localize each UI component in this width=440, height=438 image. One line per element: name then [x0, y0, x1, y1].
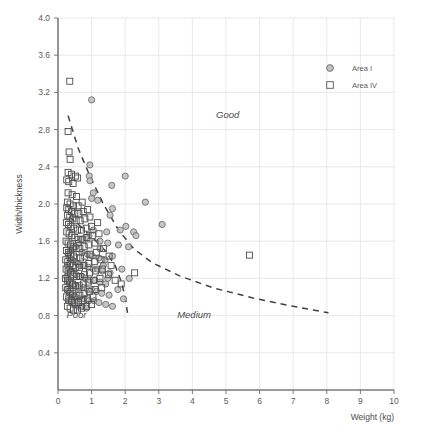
- zone-label-good: Good: [216, 109, 240, 120]
- data-point: [108, 262, 114, 268]
- scatter-plot: 0123456789100.40.81.21.62.02.42.83.23.64…: [0, 0, 440, 438]
- y-tick-label: 0.4: [38, 348, 50, 358]
- data-point: [93, 268, 99, 274]
- data-point: [96, 231, 102, 237]
- data-point: [95, 220, 101, 226]
- data-point: [99, 285, 105, 291]
- y-tick-label: 1.2: [38, 273, 50, 283]
- data-point: [87, 178, 93, 184]
- data-point: [132, 270, 138, 276]
- data-point: [86, 288, 92, 294]
- data-point: [119, 266, 125, 272]
- y-tick-label: 0.8: [38, 311, 50, 321]
- legend-label-area-iv: Area IV: [352, 81, 377, 90]
- x-tick-label: 5: [224, 396, 229, 406]
- x-tick-label: 1: [89, 396, 94, 406]
- data-point: [99, 266, 105, 272]
- y-tick-label: 1.6: [38, 236, 50, 246]
- data-point: [247, 252, 253, 258]
- x-tick-label: 2: [123, 396, 128, 406]
- legend-marker-area-i: [327, 65, 334, 72]
- data-point: [85, 207, 91, 213]
- data-point: [87, 214, 93, 220]
- x-tick-label: 0: [56, 396, 61, 406]
- legend-label-area-i: Area I: [352, 64, 372, 73]
- x-tick-label: 6: [257, 396, 262, 406]
- data-point: [89, 97, 95, 103]
- y-tick-label: 3.2: [38, 87, 50, 97]
- data-point: [142, 199, 148, 205]
- data-point: [86, 242, 92, 248]
- data-point: [65, 128, 71, 134]
- data-point: [109, 206, 115, 212]
- y-tick-label: 2.8: [38, 125, 50, 135]
- data-point: [91, 259, 97, 265]
- data-point: [115, 242, 121, 248]
- data-point: [89, 233, 95, 239]
- data-point: [79, 199, 85, 205]
- x-tick-label: 3: [156, 396, 161, 406]
- data-point: [107, 212, 113, 218]
- legend-marker-area-iv: [327, 82, 334, 89]
- chart-container: 0123456789100.40.81.21.62.02.42.83.23.64…: [0, 0, 440, 438]
- data-point: [117, 227, 123, 233]
- data-point: [125, 244, 131, 250]
- y-tick-label: 4.0: [38, 13, 50, 23]
- data-point: [67, 156, 73, 162]
- data-point: [100, 246, 106, 252]
- x-tick-label: 4: [190, 396, 195, 406]
- data-point: [133, 233, 139, 239]
- data-point: [93, 249, 99, 255]
- data-point: [95, 197, 101, 203]
- data-point: [106, 292, 112, 298]
- data-point: [89, 195, 95, 201]
- data-point: [66, 149, 72, 155]
- data-point: [159, 221, 165, 227]
- data-point: [120, 296, 126, 302]
- y-tick-label: 2.4: [38, 162, 50, 172]
- data-point: [96, 299, 102, 305]
- x-tick-label: 10: [389, 396, 399, 406]
- data-point: [109, 182, 115, 188]
- data-point: [92, 287, 98, 293]
- data-point: [89, 301, 95, 307]
- x-tick-label: 9: [358, 396, 363, 406]
- data-point: [118, 281, 124, 287]
- data-point: [98, 257, 104, 263]
- data-point: [91, 277, 97, 283]
- data-point: [89, 223, 95, 229]
- x-axis-title: Weight (kg): [351, 412, 394, 422]
- data-point: [123, 223, 129, 229]
- data-point: [105, 272, 111, 278]
- data-point: [70, 181, 76, 187]
- x-tick-label: 8: [324, 396, 329, 406]
- data-point: [74, 175, 80, 181]
- y-axis-title: Width/thickness: [14, 174, 24, 234]
- data-point: [92, 240, 98, 246]
- zone-label-poor: Poor: [66, 309, 87, 320]
- y-tick-label: 3.6: [38, 50, 50, 60]
- data-point: [106, 253, 112, 259]
- data-point: [97, 275, 103, 281]
- zone-label-medium: Medium: [177, 309, 211, 320]
- data-point: [87, 162, 93, 168]
- x-tick-label: 7: [291, 396, 296, 406]
- y-tick-label: 2.0: [38, 199, 50, 209]
- data-point: [112, 277, 118, 283]
- data-point: [103, 301, 109, 307]
- data-point: [109, 303, 115, 309]
- data-point: [122, 173, 128, 179]
- data-point: [73, 194, 79, 200]
- data-point: [67, 78, 73, 84]
- data-point: [87, 251, 93, 257]
- data-point: [90, 294, 96, 300]
- data-point: [87, 270, 93, 276]
- data-point: [104, 229, 110, 235]
